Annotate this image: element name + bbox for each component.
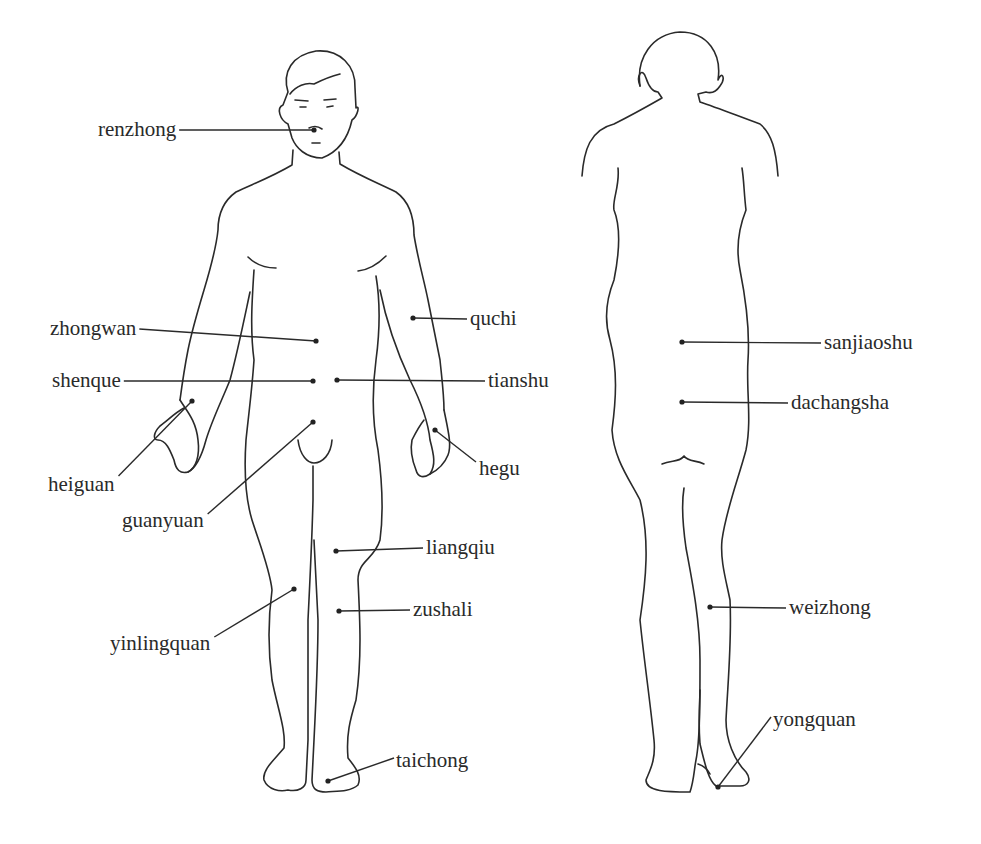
point-dot-renzhong [311,127,316,132]
leader-line-tianshu [337,380,485,381]
leader-line-zhongwan [139,329,316,341]
leader-line-dachangsha [682,402,788,403]
leader-line-hegu [435,430,476,462]
label-yinlingquan: yinlingquan [110,633,210,654]
leader-line-taichong [328,758,394,781]
point-dot-yongquan [715,784,720,789]
front-figure [154,51,449,792]
label-heiguan: heiguan [48,474,114,495]
label-shenque: shenque [52,370,121,391]
label-dachangsha: dachangsha [791,392,889,413]
point-dot-weizhong [707,604,712,609]
leader-line-guanyuan [208,422,313,514]
leader-line-heiguan [118,401,192,476]
label-zushali: zushali [413,599,472,620]
label-sanjiaoshu: sanjiaoshu [824,332,913,353]
leader-line-weizhong [710,607,786,608]
point-dot-zushali [336,608,341,613]
leader-line-liangqiu [336,548,423,551]
label-liangqiu: liangqiu [426,537,495,558]
back-figure [582,32,778,792]
label-guanyuan: guanyuan [122,510,204,531]
point-dot-liangqiu [333,548,338,553]
point-dot-heiguan [189,398,194,403]
point-dot-yinlingquan [291,586,296,591]
leader-line-sanjiaoshu [682,342,821,343]
label-yongquan: yongquan [773,709,856,730]
point-dot-dachangsha [679,399,684,404]
label-zhongwan: zhongwan [50,318,136,339]
label-taichong: taichong [396,750,468,771]
leader-lines [118,127,821,789]
leader-line-zushali [339,610,410,611]
label-hegu: hegu [479,458,520,479]
label-quchi: quchi [470,308,517,329]
leader-line-quchi [413,318,467,319]
point-dot-guanyuan [310,419,315,424]
point-dot-quchi [410,315,415,320]
label-weizhong: weizhong [789,597,871,618]
label-tianshu: tianshu [488,370,549,391]
point-dot-tianshu [334,377,339,382]
point-dot-hegu [432,427,437,432]
point-dot-shenque [310,378,315,383]
leader-line-yinlingquan [214,589,294,637]
point-dot-taichong [325,778,330,783]
acupuncture-diagram: renzhongzhongwanshenqueheiguanguanyuanyi… [0,0,981,844]
label-renzhong: renzhong [98,119,176,140]
point-dot-zhongwan [313,338,318,343]
point-dot-sanjiaoshu [679,339,684,344]
